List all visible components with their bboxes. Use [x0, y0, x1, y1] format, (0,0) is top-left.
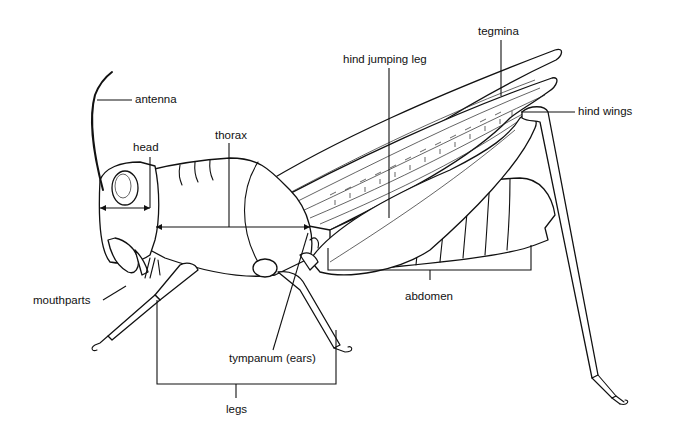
- label-hind-jumping-leg: hind jumping leg: [343, 54, 427, 66]
- label-mouthparts: mouthparts: [33, 295, 91, 307]
- compound-eye: [112, 171, 138, 205]
- label-head: head: [133, 142, 159, 154]
- grasshopper-diagram: antenna head thorax hind jumping leg teg…: [0, 0, 675, 445]
- label-abdomen: abdomen: [405, 291, 453, 303]
- label-hind-wings: hind wings: [578, 106, 632, 118]
- label-tympanum: tympanum (ears): [229, 353, 316, 365]
- label-antenna: antenna: [135, 94, 177, 106]
- label-legs: legs: [226, 404, 247, 416]
- front-leg-shape: [155, 263, 198, 300]
- label-tegmina: tegmina: [478, 26, 519, 38]
- label-thorax: thorax: [215, 130, 247, 142]
- grasshopper-illustration: [0, 0, 675, 445]
